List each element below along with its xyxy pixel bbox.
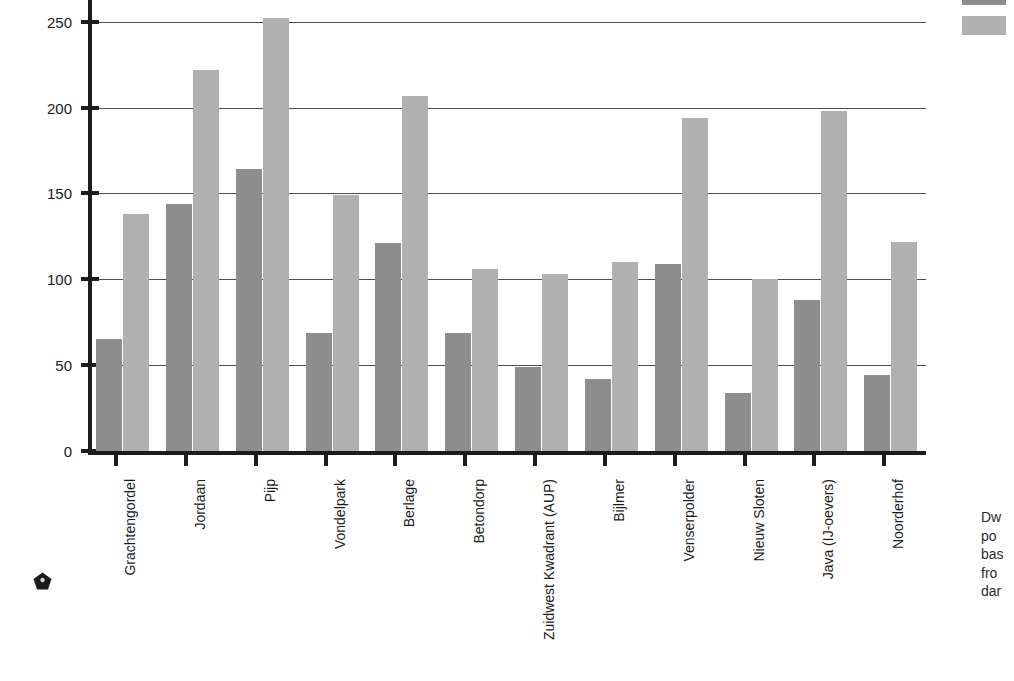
x-axis-tick-label: Bijlmer [611,479,627,522]
x-axis-tick-label: Vondelpark [332,479,348,549]
x-axis-tick-label: Jordaan [192,479,208,530]
x-axis-tick [533,455,537,466]
bar [725,393,751,451]
bar [402,96,428,451]
plot-area: GrachtengordelJordaanPijpVondelparkBerla… [88,0,926,455]
y-axis-tick [81,277,99,281]
x-axis-tick [603,455,607,466]
bar [96,339,122,451]
bar [375,243,401,451]
caption-line: Dw [981,508,1014,527]
y-axis-tick-label: 50 [55,357,72,374]
x-axis-tick-label: Java (IJ-oevers) [820,479,836,579]
legend-item-series-1 [962,0,1014,6]
caption-line: dar [981,582,1014,601]
gridline [92,22,926,23]
bar [542,274,568,451]
y-axis-spine [88,0,92,455]
bar [445,333,471,451]
caption-line: fro [981,564,1014,583]
x-axis-tick-label: Zuidwest Kwadrant (AUP) [541,479,557,640]
bar [682,118,708,451]
y-axis-tick-label: 250 [47,13,72,30]
side-caption: Dwpobasfrodar [981,508,1014,601]
x-axis-tick [882,455,886,466]
x-axis-tick-label: Nieuw Sloten [751,479,767,562]
legend-item-series-2 [962,16,1014,36]
bar [794,300,820,451]
bar [193,70,219,451]
bar [166,204,192,451]
bar [472,269,498,451]
bar [821,111,847,451]
bar [236,169,262,451]
x-axis-tick-label: Venserpolder [681,479,697,562]
x-axis-tick-label: Pijp [262,479,278,502]
y-axis-tick-label: 0 [64,443,72,460]
bar [655,264,681,451]
bar [752,279,778,451]
y-axis-tick-label: 100 [47,271,72,288]
x-axis-tick [184,455,188,466]
x-axis-tick [324,455,328,466]
caption-line: bas [981,545,1014,564]
y-axis-tick [81,191,99,195]
chart-legend [962,0,1014,46]
y-axis-tick [81,20,99,24]
x-axis-tick [393,455,397,466]
x-axis-tick [812,455,816,466]
bar [306,333,332,451]
bar [891,242,917,451]
x-axis-tick [114,455,118,466]
x-axis-tick [463,455,467,466]
bar [864,375,890,451]
bar [612,262,638,451]
y-axis-tick-label: 150 [47,185,72,202]
bar-chart-figure: 050100150200250 density GrachtengordelJo… [0,0,1014,681]
y-axis-tick-label: 200 [47,99,72,116]
legend-swatch-series-1 [962,0,1006,5]
x-axis-tick-label: Berlage [401,479,417,527]
pentagon-page-mark-icon [33,572,52,590]
bar [333,195,359,451]
x-axis-tick-label: Noorderhof [890,479,906,549]
bar [123,214,149,451]
x-axis-tick-label: Betondorp [471,479,487,544]
x-axis-tick [254,455,258,466]
bar [263,18,289,451]
x-axis-tick-label: Grachtengordel [122,479,138,576]
bar [515,367,541,451]
y-axis-tick [81,106,99,110]
x-axis-spine [88,451,926,455]
bar [585,379,611,451]
caption-line: po [981,527,1014,546]
legend-swatch-series-2 [962,16,1006,35]
x-axis-tick [673,455,677,466]
x-axis-tick [743,455,747,466]
